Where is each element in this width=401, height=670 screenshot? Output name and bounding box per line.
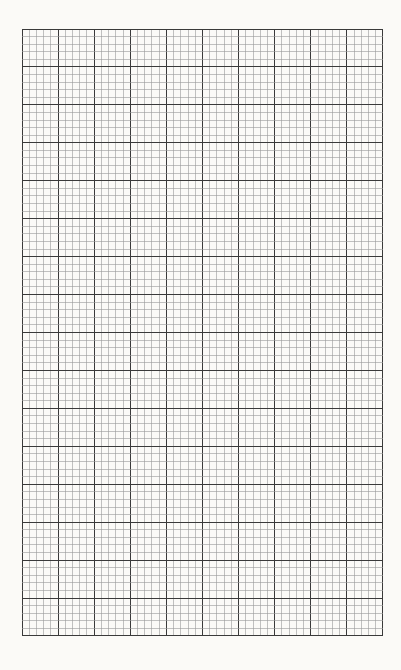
grid-svg	[22, 29, 383, 636]
graph-paper-grid	[22, 29, 383, 636]
